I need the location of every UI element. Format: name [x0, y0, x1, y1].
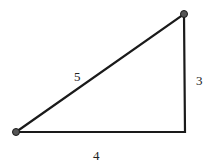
right-triangle-diagram: 5 3 4 — [0, 0, 212, 167]
hypotenuse-label: 5 — [74, 69, 81, 84]
triangle-outline — [16, 14, 185, 132]
vertex-dot-top-right — [181, 11, 188, 18]
vertical-side-label: 3 — [196, 73, 203, 88]
vertex-dot-bottom-left — [13, 129, 20, 136]
horizontal-side-label: 4 — [93, 148, 100, 163]
